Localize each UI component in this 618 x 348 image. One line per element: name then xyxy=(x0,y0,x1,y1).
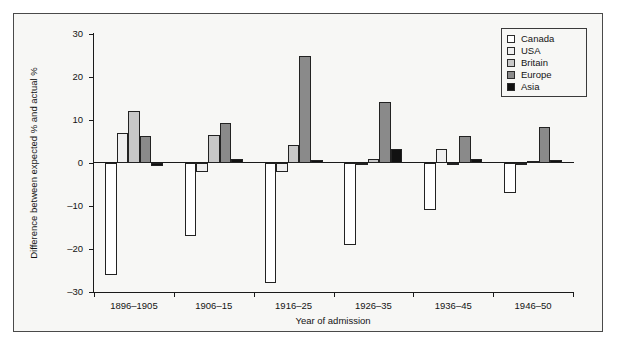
bar-usa-3 xyxy=(356,163,368,165)
bar-europe-1 xyxy=(220,123,232,163)
legend-item-asia[interactable]: Asia xyxy=(507,81,581,92)
figure-canvas: Difference between expected % and actual… xyxy=(0,0,618,348)
y-axis-tick-label: 10 xyxy=(0,115,83,125)
bar-europe-3 xyxy=(379,102,391,163)
bar-usa-5 xyxy=(516,163,528,165)
y-axis-tick-label: –20 xyxy=(0,244,83,254)
x-axis-tick xyxy=(174,292,175,297)
bar-europe-0 xyxy=(140,136,152,163)
x-axis-tick xyxy=(94,292,95,297)
y-axis-tick xyxy=(89,163,94,164)
bar-usa-4 xyxy=(436,149,448,163)
legend-item-canada[interactable]: Canada xyxy=(507,33,581,44)
x-axis-tick xyxy=(413,292,414,297)
bar-britain-0 xyxy=(128,111,140,163)
y-axis-tick xyxy=(89,120,94,121)
bar-canada-5 xyxy=(504,163,516,193)
y-axis-tick-label: 20 xyxy=(0,72,83,82)
x-axis-tick-label: 1926–35 xyxy=(355,300,392,311)
legend-item-label: USA xyxy=(521,46,541,56)
x-axis-tick-label: 1946–50 xyxy=(515,300,552,311)
y-axis-tick-label: –10 xyxy=(0,201,83,211)
bar-asia-1 xyxy=(231,159,243,163)
bar-canada-1 xyxy=(185,163,197,236)
x-axis-tick xyxy=(254,292,255,297)
bar-europe-5 xyxy=(539,127,551,163)
legend-item-britain[interactable]: Britain xyxy=(507,57,581,68)
chart-legend: CanadaUSABritainEuropeAsia xyxy=(501,28,587,97)
bar-canada-4 xyxy=(424,163,436,210)
y-axis-tick-label: –30 xyxy=(0,287,83,297)
x-axis-label: Year of admission xyxy=(295,315,370,326)
bar-asia-3 xyxy=(391,149,403,163)
y-axis-tick-label: 30 xyxy=(0,29,83,39)
legend-item-label: Asia xyxy=(521,82,539,92)
y-axis-tick xyxy=(89,34,94,35)
legend-swatch-icon xyxy=(507,59,515,67)
legend-item-europe[interactable]: Europe xyxy=(507,69,581,80)
legend-swatch-icon xyxy=(507,35,515,43)
x-axis-tick xyxy=(573,292,574,297)
legend-item-label: Britain xyxy=(521,58,548,68)
legend-item-label: Europe xyxy=(521,70,552,80)
y-axis-tick xyxy=(89,249,94,250)
bar-europe-4 xyxy=(459,136,471,163)
bar-britain-5 xyxy=(527,161,539,163)
x-axis-tick-label: 1936–45 xyxy=(435,300,472,311)
bar-usa-0 xyxy=(117,133,129,163)
bar-britain-4 xyxy=(447,163,459,165)
bar-usa-2 xyxy=(276,163,288,172)
bar-asia-0 xyxy=(151,163,163,166)
bar-canada-0 xyxy=(105,163,117,275)
bar-asia-2 xyxy=(311,160,323,163)
x-axis-tick-label: 1906–15 xyxy=(195,300,232,311)
legend-swatch-icon xyxy=(507,71,515,79)
bar-canada-2 xyxy=(265,163,277,283)
bar-britain-3 xyxy=(368,159,380,163)
x-axis-tick-label: 1916–25 xyxy=(275,300,312,311)
x-axis-tick xyxy=(493,292,494,297)
bar-britain-2 xyxy=(288,145,300,163)
legend-swatch-icon xyxy=(507,83,515,91)
x-axis-tick xyxy=(334,292,335,297)
bar-britain-1 xyxy=(208,135,220,163)
legend-swatch-icon xyxy=(507,47,515,55)
y-axis-tick-label: 0 xyxy=(0,158,83,168)
bar-usa-1 xyxy=(196,163,208,172)
y-axis-tick xyxy=(89,206,94,207)
legend-item-label: Canada xyxy=(521,34,554,44)
bar-canada-3 xyxy=(344,163,356,245)
bar-asia-5 xyxy=(550,160,562,163)
x-axis-tick-label: 1896–1905 xyxy=(110,300,158,311)
bar-europe-2 xyxy=(299,56,311,164)
bar-asia-4 xyxy=(471,159,483,163)
y-axis-tick xyxy=(89,77,94,78)
legend-item-usa[interactable]: USA xyxy=(507,45,581,56)
